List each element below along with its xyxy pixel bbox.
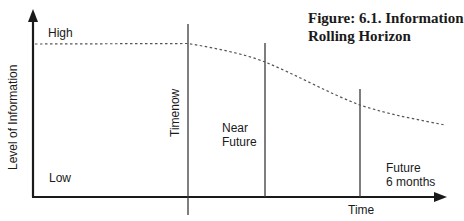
y-axis-arrow-icon [28, 9, 38, 22]
y-low-label: Low [49, 171, 71, 185]
future-6-months-label-line1: Future [386, 161, 435, 175]
timenow-label: Timenow [168, 89, 182, 137]
y-axis-label: Level of Information [6, 65, 20, 170]
figure-title-line1: Figure: 6.1. Information [308, 9, 464, 27]
future-6-months-label-line2: 6 months [386, 175, 435, 189]
x-axis-arrow-icon [434, 192, 447, 202]
figure-title-line2: Rolling Horizon [308, 27, 464, 45]
future-6-months-label: Future 6 months [386, 161, 435, 189]
x-axis-label: Time [348, 203, 374, 217]
information-curve [35, 44, 445, 126]
figure-title: Figure: 6.1. Information Rolling Horizon [308, 9, 464, 45]
near-future-label-line1: Near [222, 121, 257, 135]
near-future-label: Near Future [222, 121, 257, 149]
y-high-label: High [48, 26, 73, 40]
near-future-label-line2: Future [222, 135, 257, 149]
